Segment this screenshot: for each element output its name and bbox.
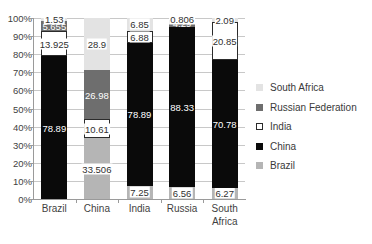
- bar-series-container: 78.8913.9255.6551.5333.50610.6126.9828.9…: [33, 18, 246, 199]
- bar-segment[interactable]: [127, 186, 153, 199]
- y-axis-tick-mark: [29, 18, 33, 19]
- y-axis-tick-mark: [29, 72, 33, 73]
- y-axis-tick-label: 50%: [1, 103, 32, 114]
- legend-item[interactable]: Russian Federation: [256, 98, 370, 118]
- y-axis-tick-mark: [29, 199, 33, 200]
- y-axis-tick-label: 10%: [1, 175, 32, 186]
- y-axis-tick-label: 60%: [1, 85, 32, 96]
- y-axis-tick-label: 40%: [1, 121, 32, 132]
- bar-segment[interactable]: [127, 18, 153, 30]
- bar-column[interactable]: 78.8913.9255.6551.53: [41, 18, 67, 199]
- bar-segment[interactable]: [127, 43, 153, 186]
- legend-item-label: South Africa: [270, 82, 324, 93]
- x-axis-category-label: Russia: [159, 203, 205, 216]
- bar-segment[interactable]: [127, 31, 153, 43]
- x-axis-category-label: Brazil: [31, 203, 77, 216]
- bar-segment[interactable]: [169, 20, 195, 28]
- legend-item-label: Russian Federation: [270, 102, 357, 113]
- bar-segment[interactable]: [41, 18, 67, 21]
- y-axis-tick-mark: [29, 127, 33, 128]
- legend-item[interactable]: Brazil: [256, 156, 370, 176]
- bar-segment[interactable]: [84, 138, 110, 199]
- y-axis-tick-mark: [29, 109, 33, 110]
- y-axis-tick-mark: [29, 36, 33, 37]
- x-axis-tick-mark: [161, 199, 162, 203]
- y-axis-tick-label: 20%: [1, 157, 32, 168]
- bar-column[interactable]: 33.50610.6126.9828.9: [84, 18, 110, 199]
- bar-column[interactable]: 6.2770.7820.852.09: [212, 18, 238, 199]
- chart-legend: South AfricaRussian FederationIndiaChina…: [256, 78, 370, 176]
- x-axis-tick-mark: [118, 199, 119, 203]
- x-axis-tick-mark: [203, 199, 204, 203]
- bar-segment[interactable]: [169, 27, 195, 187]
- y-axis-tick-label: 90%: [1, 31, 32, 42]
- legend-item[interactable]: China: [256, 137, 370, 157]
- x-axis-line: [33, 199, 246, 200]
- bar-segment[interactable]: [84, 18, 110, 70]
- bar-segment[interactable]: [212, 60, 238, 188]
- y-axis-tick-mark: [29, 181, 33, 182]
- y-axis-tick-label: 0%: [1, 194, 32, 205]
- bar-segment[interactable]: [84, 119, 110, 138]
- stacked-bar-chart: 0%10%20%30%40%50%60%70%80%90%100% 78.891…: [0, 0, 372, 244]
- bar-column[interactable]: 7.2578.896.886.85: [127, 18, 153, 199]
- y-axis-tick-mark: [29, 90, 33, 91]
- y-axis-tick-mark: [29, 54, 33, 55]
- y-axis-tick-mark: [29, 163, 33, 164]
- y-axis-tick-mark: [29, 145, 33, 146]
- y-axis-tick-label: 80%: [1, 49, 32, 60]
- legend-swatch-icon: [256, 84, 263, 91]
- legend-item-label: China: [270, 141, 296, 152]
- y-axis-tick-labels: 0%10%20%30%40%50%60%70%80%90%100%: [0, 18, 32, 200]
- legend-item[interactable]: South Africa: [256, 78, 370, 98]
- legend-swatch-icon: [256, 162, 263, 169]
- legend-swatch-icon: [256, 143, 263, 150]
- y-axis-tick-label: 70%: [1, 67, 32, 78]
- bar-segment[interactable]: [169, 18, 195, 19]
- x-axis-category-label: South Africa: [202, 203, 248, 228]
- x-axis-category-label: India: [117, 203, 163, 216]
- legend-swatch-icon: [256, 123, 263, 130]
- legend-item-label: India: [270, 121, 292, 132]
- legend-item[interactable]: India: [256, 117, 370, 137]
- bar-segment[interactable]: [41, 21, 67, 31]
- legend-item-label: Brazil: [270, 160, 295, 171]
- bar-segment[interactable]: [41, 31, 67, 56]
- legend-swatch-icon: [256, 104, 263, 111]
- x-axis-category-labels: BrazilChinaIndiaRussiaSouth Africa: [33, 203, 246, 243]
- y-axis-tick-label: 100%: [1, 13, 32, 24]
- bar-segment[interactable]: [212, 188, 238, 199]
- y-axis-tick-label: 30%: [1, 139, 32, 150]
- bar-column[interactable]: 6.5688.334.290.806: [169, 18, 195, 199]
- bar-segment[interactable]: [212, 18, 238, 22]
- bar-segment[interactable]: [84, 70, 110, 119]
- x-axis-tick-mark: [76, 199, 77, 203]
- x-axis-category-label: China: [74, 203, 120, 216]
- bar-segment[interactable]: [212, 22, 238, 60]
- bar-segment[interactable]: [169, 187, 195, 199]
- bar-segment[interactable]: [41, 56, 67, 199]
